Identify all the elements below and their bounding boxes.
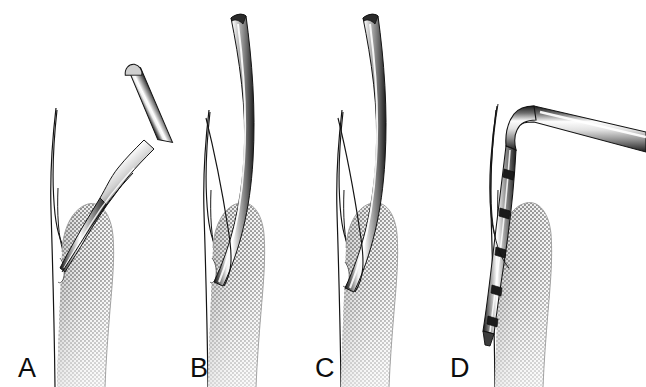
periodontal-illustration: A B C D xyxy=(0,0,646,387)
figure-container: A B C D xyxy=(0,0,646,387)
panel-label-a: A xyxy=(18,353,36,383)
panel-label-b: B xyxy=(190,353,208,383)
panel-label-c: C xyxy=(315,353,335,383)
panel-label-d: D xyxy=(450,353,470,383)
